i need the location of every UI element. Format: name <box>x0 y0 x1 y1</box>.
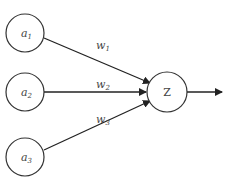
svg-text:Z: Z <box>163 86 171 99</box>
input-node-a3: a3 <box>6 138 44 176</box>
input-node-a2: a2 <box>6 73 44 111</box>
weight-label-w3: w3 <box>96 113 110 127</box>
weight-label-w2: w2 <box>96 78 110 92</box>
input-node-a1: a1 <box>6 14 44 52</box>
output-node-z: Z <box>147 72 187 112</box>
weight-label-w1: w1 <box>96 39 110 53</box>
perceptron-diagram: a1 a2 a3 w1 w2 w3 Z <box>0 0 234 181</box>
